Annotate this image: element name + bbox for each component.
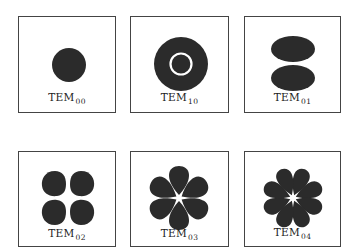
panel-tem02: TEM02 [18,151,116,247]
mode-label-tem10: TEM10 [131,91,228,106]
panel-tem03: TEM03 [130,151,229,247]
panel-tem04: TEM04 [244,151,341,247]
panel-tem10: TEM10 [130,16,229,113]
mode-label-tem03: TEM03 [131,227,228,242]
mode-label-tem00: TEM00 [19,91,115,106]
mode-label-tem02: TEM02 [19,227,115,242]
mode-label-tem04: TEM04 [245,226,340,241]
mode-label-tem01: TEM01 [245,91,340,106]
panel-tem01: TEM01 [244,16,341,113]
panel-tem00: TEM00 [18,16,116,113]
